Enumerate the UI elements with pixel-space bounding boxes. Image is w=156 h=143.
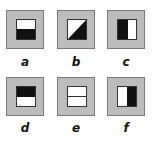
black-region [127, 87, 136, 106]
label-c: c [107, 55, 145, 69]
pattern-top-black [16, 86, 36, 107]
pattern-right-black [117, 86, 137, 107]
tile-e [57, 77, 95, 116]
pattern-horizontal-line [67, 86, 87, 107]
label-a: a [6, 55, 44, 69]
tile-b [57, 10, 95, 49]
black-region [118, 20, 128, 39]
black-region [17, 87, 35, 97]
tile-a [6, 10, 44, 49]
diagonal-black-triangle-icon [68, 20, 86, 39]
tile-d [6, 77, 44, 116]
pattern-bottom-black [16, 19, 36, 40]
pattern-diagonal [67, 19, 87, 40]
pattern-left-black [117, 19, 137, 40]
horizontal-divider [68, 96, 86, 97]
tile-c [107, 10, 145, 49]
tile-f [107, 77, 145, 116]
label-d: d [6, 121, 44, 135]
label-f: f [107, 121, 145, 135]
label-b: b [57, 55, 95, 69]
black-region [17, 29, 35, 39]
label-e: e [57, 121, 95, 135]
